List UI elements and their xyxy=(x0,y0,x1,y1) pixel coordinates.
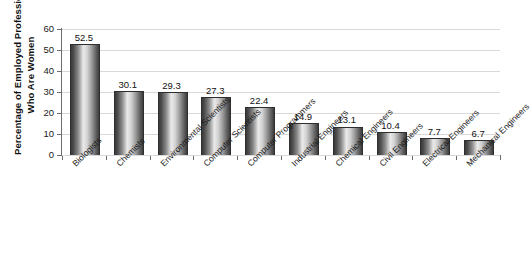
y-tick-mark xyxy=(57,134,61,135)
gridline xyxy=(62,29,500,30)
y-tick-label: 0 xyxy=(28,150,54,160)
x-tick-mark xyxy=(237,156,238,160)
x-tick-mark xyxy=(369,156,370,160)
gridline xyxy=(62,71,500,72)
y-tick-mark xyxy=(57,71,61,72)
x-tick-mark xyxy=(325,156,326,160)
x-tick-mark xyxy=(193,156,194,160)
bar-value-label: 22.4 xyxy=(239,96,279,106)
y-tick-label: 30 xyxy=(28,87,54,97)
gridline xyxy=(62,50,500,51)
bar-value-label: 30.1 xyxy=(108,80,148,90)
y-axis-title-line-1: Percentage of Employed Professionals xyxy=(12,0,25,155)
y-tick-label: 60 xyxy=(28,24,54,34)
x-tick-mark xyxy=(62,156,63,160)
bar-value-label: 27.3 xyxy=(195,86,235,96)
y-tick-mark xyxy=(57,155,61,156)
y-tick-label: 40 xyxy=(28,66,54,76)
y-tick-mark xyxy=(57,92,61,93)
y-tick-mark xyxy=(57,50,61,51)
x-tick-mark xyxy=(412,156,413,160)
bar-value-label: 52.5 xyxy=(64,33,104,43)
y-tick-label: 20 xyxy=(28,108,54,118)
x-tick-mark xyxy=(281,156,282,160)
x-tick-mark xyxy=(456,156,457,160)
x-tick-mark xyxy=(106,156,107,160)
y-tick-mark xyxy=(57,29,61,30)
y-tick-label: 10 xyxy=(28,129,54,139)
y-tick-label: 50 xyxy=(28,45,54,55)
bar-value-label: 29.3 xyxy=(152,81,192,91)
y-tick-mark xyxy=(57,113,61,114)
x-tick-mark xyxy=(150,156,151,160)
x-tick-mark xyxy=(500,156,501,160)
